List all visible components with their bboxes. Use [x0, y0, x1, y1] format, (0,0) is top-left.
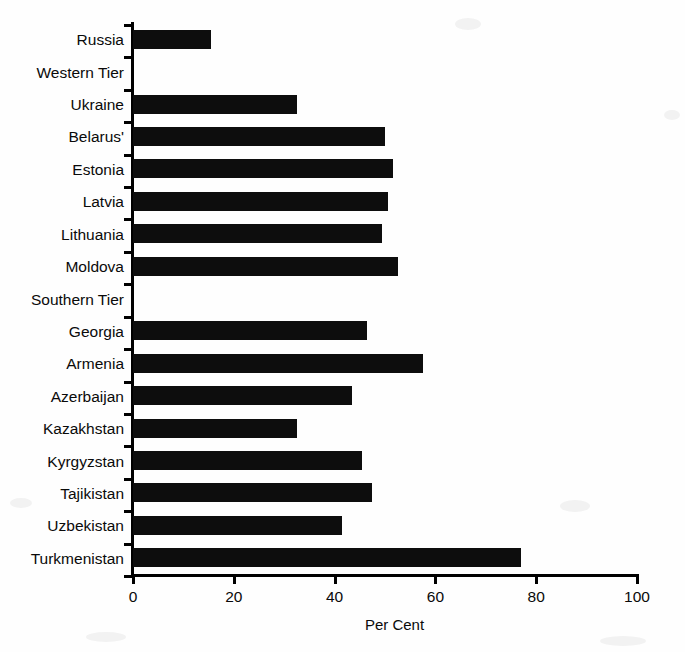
y-axis-tick — [124, 283, 133, 286]
y-axis-tick — [124, 316, 133, 319]
x-axis-tick-label: 60 — [427, 589, 444, 605]
bar — [133, 192, 388, 211]
y-axis-category-label: Southern Tier — [4, 292, 124, 308]
x-axis-title: Per Cent — [0, 616, 685, 633]
bar — [133, 386, 352, 405]
x-axis-tick — [132, 575, 135, 584]
x-axis-tick-label: 0 — [129, 589, 138, 605]
y-axis-tick — [124, 56, 133, 59]
y-axis-category-label: Uzbekistan — [4, 518, 124, 534]
y-axis-tick — [124, 478, 133, 481]
plot-area — [133, 24, 637, 575]
y-axis-category-label: Kazakhstan — [4, 421, 124, 437]
x-axis-tick — [434, 575, 437, 584]
bar — [133, 483, 372, 502]
y-axis-tick — [124, 445, 133, 448]
y-axis-tick — [124, 24, 133, 27]
bar-chart: RussiaWestern TierUkraineBelarus'Estonia… — [0, 0, 685, 652]
y-axis-category-label: Western Tier — [4, 65, 124, 81]
y-axis-tick — [124, 543, 133, 546]
y-axis-category-labels: RussiaWestern TierUkraineBelarus'Estonia… — [0, 24, 124, 575]
bar — [133, 95, 297, 114]
y-axis-category-label: Latvia — [4, 194, 124, 210]
y-axis-tick — [124, 348, 133, 351]
scan-artifact — [86, 632, 126, 642]
x-axis-tick — [535, 575, 538, 584]
y-axis-tick — [124, 89, 133, 92]
y-axis-tick — [124, 251, 133, 254]
x-axis-tick — [233, 575, 236, 584]
x-axis-title-text: Per Cent — [365, 616, 424, 633]
y-axis-tick — [124, 121, 133, 124]
y-axis-tick — [124, 186, 133, 189]
y-axis-category-label: Moldova — [4, 259, 124, 275]
x-axis-tick-label: 100 — [624, 589, 650, 605]
bar — [133, 516, 342, 535]
scan-artifact — [664, 110, 680, 120]
y-axis-category-label: Estonia — [4, 162, 124, 178]
bar — [133, 354, 423, 373]
bar — [133, 321, 367, 340]
y-axis-category-label: Armenia — [4, 356, 124, 372]
bar — [133, 30, 211, 49]
bar — [133, 224, 382, 243]
y-axis-tick — [124, 510, 133, 513]
bar — [133, 419, 297, 438]
y-axis-tick — [124, 381, 133, 384]
y-axis-category-label: Georgia — [4, 324, 124, 340]
bar — [133, 548, 521, 567]
x-axis-tick — [636, 575, 639, 584]
y-axis-category-label: Ukraine — [4, 97, 124, 113]
y-axis-category-label: Belarus' — [4, 129, 124, 145]
x-axis-tick-label: 40 — [326, 589, 343, 605]
y-axis-category-label: Kyrgyzstan — [4, 454, 124, 470]
y-axis-category-label: Lithuania — [4, 227, 124, 243]
bar — [133, 257, 398, 276]
scan-artifact — [600, 636, 646, 646]
y-axis-category-label: Azerbaijan — [4, 389, 124, 405]
y-axis-tick — [124, 154, 133, 157]
bar — [133, 159, 393, 178]
x-axis-tick — [334, 575, 337, 584]
x-axis-tick-label: 20 — [225, 589, 242, 605]
y-axis-tick — [124, 218, 133, 221]
bar — [133, 127, 385, 146]
x-axis-tick-label: 80 — [528, 589, 545, 605]
y-axis-category-label: Tajikistan — [4, 486, 124, 502]
y-axis-tick — [124, 413, 133, 416]
bar — [133, 451, 362, 470]
y-axis-category-label: Turkmenistan — [4, 551, 124, 567]
y-axis-category-label: Russia — [4, 32, 124, 48]
